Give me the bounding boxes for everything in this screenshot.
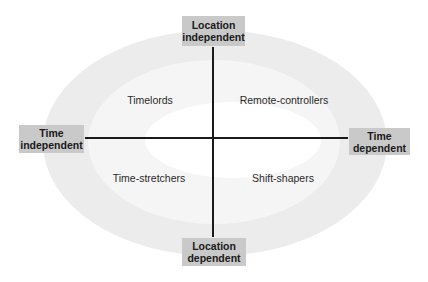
quadrant-diagram: Location independent Location dependent … (0, 0, 428, 282)
location-axis-line (212, 47, 214, 237)
pole-label-line: dependent (187, 252, 240, 264)
inner-ellipse-center (145, 102, 321, 178)
time-independent-label: Time independent (19, 125, 84, 153)
location-dependent-label: Location dependent (182, 238, 246, 266)
pole-label-line: dependent (353, 142, 406, 154)
pole-label-line: independent (20, 139, 82, 151)
quadrant-timelords: Timelords (127, 94, 173, 106)
pole-label-line: independent (182, 31, 244, 43)
location-independent-label: Location independent (182, 16, 245, 46)
time-axis-line (85, 137, 348, 139)
pole-label-line: Time (367, 130, 391, 142)
pole-label-line: Location (192, 19, 236, 31)
time-dependent-label: Time dependent (349, 128, 410, 155)
quadrant-shift-shapers: Shift-shapers (252, 172, 314, 184)
quadrant-remote-controllers: Remote-controllers (240, 94, 329, 106)
pole-label-line: Time (39, 127, 63, 139)
pole-label-line: Location (192, 240, 236, 252)
quadrant-time-stretchers: Time-stretchers (113, 172, 186, 184)
